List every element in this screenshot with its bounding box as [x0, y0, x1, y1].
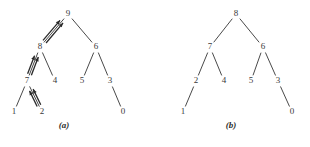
tree-edge [240, 19, 259, 43]
tree-node-0: 0 [117, 107, 129, 116]
tree-edge [84, 53, 93, 76]
tree-edge [44, 19, 64, 43]
tree-node-6: 6 [257, 42, 269, 51]
tree-node-7: 7 [204, 42, 216, 51]
tree-node-7: 7 [21, 76, 33, 85]
tree-edge [214, 19, 233, 43]
tree-node-6: 6 [90, 42, 102, 51]
tree-edge [98, 53, 107, 76]
tree-edge [185, 87, 193, 107]
tree-diagram-a [0, 0, 155, 125]
tree-node-1: 1 [177, 107, 189, 116]
tree-edge [112, 87, 120, 107]
panel-caption-b: (b) [216, 120, 246, 130]
tree-node-8: 8 [34, 42, 46, 51]
tree-node-3: 3 [272, 76, 284, 85]
tree-edge [16, 87, 24, 107]
panel-caption-a: (a) [49, 120, 79, 130]
tree-edge [253, 53, 261, 76]
tree-edge [198, 53, 207, 76]
tree-node-8: 8 [230, 9, 242, 18]
tree-node-2: 2 [36, 107, 48, 116]
tree-edge [280, 86, 289, 106]
tree-edge [42, 52, 52, 75]
tree-node-1: 1 [8, 107, 20, 116]
tree-edge [30, 86, 40, 106]
tree-edge [212, 53, 221, 76]
panel-tree-a: 9867453120 (a) [0, 0, 155, 147]
tree-edge [265, 52, 275, 75]
tree-node-2: 2 [190, 76, 202, 85]
panel-tree-b: 876245310 (b) [155, 0, 310, 147]
tree-node-4: 4 [49, 76, 61, 85]
tree-node-5: 5 [245, 76, 257, 85]
figure-binary-trees: 9867453120 (a) 876245310 (b) [0, 0, 310, 147]
tree-node-5: 5 [76, 76, 88, 85]
tree-node-3: 3 [104, 76, 116, 85]
tree-edge [72, 19, 92, 43]
tree-node-4: 4 [218, 76, 230, 85]
tree-node-9: 9 [62, 9, 74, 18]
tree-edge [29, 53, 38, 76]
arrow-head-icon [31, 56, 35, 61]
tree-node-0: 0 [286, 107, 298, 116]
